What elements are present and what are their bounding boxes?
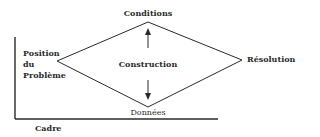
label-position-line-3: Problème [23, 70, 66, 81]
label-position-line-1: Position [23, 48, 66, 59]
label-donnees: Données [130, 109, 165, 117]
label-resolution: Résolution [247, 55, 295, 63]
label-position-du-probleme: Position du Problème [23, 48, 66, 81]
label-conditions: Conditions [124, 9, 173, 17]
label-position-line-2: du [23, 59, 66, 70]
arrow-up-icon [145, 28, 151, 48]
arrow-down-icon [145, 80, 151, 100]
label-construction: Construction [119, 60, 178, 68]
label-cadre: Cadre [35, 124, 61, 132]
